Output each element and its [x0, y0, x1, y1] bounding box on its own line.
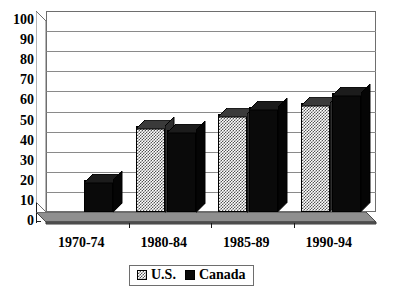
x-axis-label-1970-74: 1970-74 — [40, 236, 123, 250]
y-axis-tick-label: 30 — [0, 154, 34, 168]
x-axis-label-1990-94: 1990-94 — [288, 236, 371, 250]
x-axis-tick-mark — [129, 223, 130, 228]
bar-top-face — [332, 84, 361, 93]
bar-1985-89-US — [218, 114, 247, 212]
y-axis-tick-label: 70 — [0, 73, 34, 87]
bar-front-face — [249, 107, 278, 212]
y-axis-tick-label: 50 — [0, 114, 34, 128]
bar-1985-89-Canada — [249, 107, 278, 212]
bar-top-face — [136, 117, 165, 126]
y-axis-tick-label: 60 — [0, 93, 34, 107]
bar-front-face — [332, 93, 361, 212]
x-axis-tick-mark — [294, 223, 295, 228]
y-axis-tick-label: 20 — [0, 174, 34, 188]
bar-side-face — [361, 84, 370, 212]
y-axis-tick-label: 100 — [0, 13, 34, 27]
y-axis-tick-label: 80 — [0, 53, 34, 67]
x-axis-label-1980-84: 1980-84 — [123, 236, 206, 250]
legend-swatch-us-icon — [137, 270, 147, 280]
bar-top-face — [84, 171, 113, 180]
legend-item-us: U.S. — [137, 268, 176, 282]
bars-layer — [46, 11, 376, 212]
y-axis-tick-label: 10 — [0, 194, 34, 208]
bar-top-face — [301, 94, 330, 103]
bar-front-face — [167, 130, 196, 212]
bar-front-face — [136, 126, 165, 212]
legend-swatch-canada-icon — [185, 270, 195, 280]
plot-depth-wall — [36, 11, 46, 212]
y-axis-tick-label: 0 — [0, 214, 34, 228]
legend-label-us: U.S. — [151, 268, 176, 282]
bar-top-face — [218, 105, 247, 114]
bar-1980-84-US — [136, 126, 165, 212]
bar-side-face — [113, 171, 122, 212]
bar-top-face — [249, 98, 278, 107]
legend-label-canada: Canada — [199, 268, 246, 282]
bar-1980-84-Canada — [167, 130, 196, 212]
bar-1970-74-Canada — [84, 180, 113, 212]
bar-side-face — [196, 121, 205, 212]
bar-1990-94-Canada — [332, 93, 361, 212]
bar-top-face — [167, 121, 196, 130]
bar-side-face — [278, 98, 287, 212]
legend-item-canada: Canada — [185, 268, 246, 282]
bar-chart: 0102030405060708090100 1970-741980-84198… — [0, 0, 394, 297]
bar-front-face — [218, 114, 247, 212]
x-axis-tick-mark — [211, 223, 212, 228]
chart-legend: U.S. Canada — [129, 265, 254, 286]
bar-front-face — [301, 103, 330, 212]
bar-1990-94-US — [301, 103, 330, 212]
x-axis-label-1985-89: 1985-89 — [205, 236, 288, 250]
y-axis-tick-label: 90 — [0, 33, 34, 47]
y-axis-tick-label: 40 — [0, 134, 34, 148]
